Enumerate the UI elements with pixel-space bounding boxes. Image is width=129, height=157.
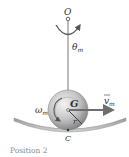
pivot-label: O [64,7,72,17]
velocity-label: vm [104,96,115,107]
contact-label: C [65,134,71,143]
theta-label: θm [72,42,83,53]
center-point-g [67,109,70,112]
center-label: G [70,98,79,109]
position-caption: Position 2 [10,146,48,155]
pivot-point [66,17,70,21]
omega-label: ωm [35,105,48,116]
pendulum-ball-diagram: O θm G ωm vm r C Position 2 [0,0,129,157]
contact-point-c [67,129,69,131]
